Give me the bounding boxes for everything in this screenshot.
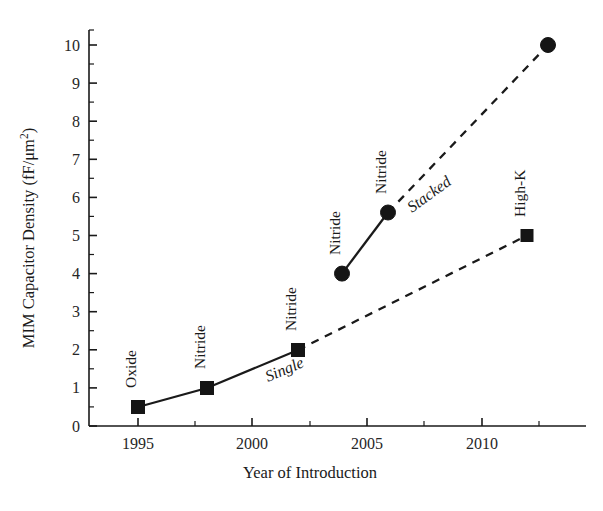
- data-point-marker: [335, 266, 350, 281]
- y-tick-label: 4: [72, 265, 80, 282]
- series-stacked: Nitride Nitride: [326, 38, 556, 282]
- y-tick-label: 5: [72, 227, 80, 244]
- y-axis-ticks: [89, 30, 97, 426]
- y-axis-tick-labels: 0 1 2 3 4 5 6 7 8 9 10: [64, 37, 80, 435]
- data-point-marker: [521, 230, 533, 242]
- point-label-nitride-2006: Nitride: [372, 150, 389, 194]
- annotation-single: Single: [263, 353, 307, 385]
- data-point-marker: [132, 401, 145, 414]
- y-tick-label: 3: [72, 303, 80, 320]
- x-tick-label: 2000: [236, 435, 268, 452]
- data-point-marker: [201, 382, 214, 395]
- point-label-oxide: Oxide: [122, 350, 139, 388]
- x-axis-tick-labels: 1995 2000 2005 2010: [122, 435, 498, 452]
- y-tick-label: 10: [64, 37, 80, 54]
- y-tick-label: 7: [72, 151, 80, 168]
- point-label-nitride-2002: Nitride: [282, 287, 299, 331]
- y-tick-label: 9: [72, 75, 80, 92]
- data-point-marker: [541, 38, 556, 53]
- chart-container: 0 1 2 3 4 5 6 7 8 9 10 1995 2000 2: [0, 0, 603, 511]
- point-label-high-k: High-K: [511, 169, 528, 217]
- x-axis-ticks: [138, 418, 539, 426]
- y-axis-title: MIM Capacitor Density (fF/μm2): [18, 128, 38, 348]
- series-single: Oxide Nitride Nitride High-K: [122, 169, 533, 414]
- y-axis-title-main: MIM Capacitor Density (fF/μm: [19, 139, 38, 348]
- y-tick-label: 0: [72, 418, 80, 435]
- y-tick-label: 1: [72, 379, 80, 396]
- x-axis-title: Year of Introduction: [243, 463, 377, 482]
- point-label-nitride-2004: Nitride: [326, 211, 343, 255]
- x-tick-label: 2010: [466, 435, 498, 452]
- mim-capacitor-density-chart: 0 1 2 3 4 5 6 7 8 9 10 1995 2000 2: [0, 0, 603, 511]
- point-label-nitride-1998: Nitride: [191, 325, 208, 369]
- annotation-stacked: Stacked: [404, 172, 455, 216]
- data-point-marker: [381, 205, 396, 220]
- y-axis-title-tail: ): [19, 128, 38, 134]
- x-tick-label: 1995: [122, 435, 154, 452]
- y-tick-label: 2: [72, 341, 80, 358]
- x-tick-label: 2005: [351, 435, 383, 452]
- stacked-solid-segment: [342, 213, 388, 274]
- y-tick-label: 8: [72, 113, 80, 130]
- y-tick-label: 6: [72, 189, 80, 206]
